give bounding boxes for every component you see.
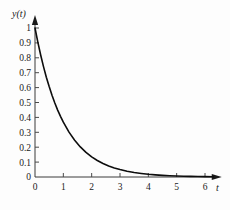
x-tick-label: 1 — [61, 182, 66, 192]
exponential-decay-figure: 00.10.20.30.40.50.60.70.80.91 0123456 y(… — [0, 0, 230, 210]
y-tick-label: 0.5 — [19, 98, 31, 108]
chart-canvas: 00.10.20.30.40.50.60.70.80.91 0123456 y(… — [0, 0, 230, 210]
axes-group — [32, 15, 222, 180]
y-tick-label: 0.2 — [19, 143, 31, 153]
y-tick-label: 0.1 — [19, 158, 31, 168]
y-axis-arrow-icon — [32, 15, 38, 25]
y-tick-label: 0.7 — [19, 68, 31, 78]
y-tick-label: 0.9 — [19, 38, 31, 48]
exponential-decay-curve — [35, 28, 214, 177]
y-tick-label: 1 — [26, 23, 31, 33]
data-curve-group — [35, 28, 214, 177]
y-tick-label: 0.4 — [19, 113, 31, 123]
y-tick-label: 0.8 — [19, 53, 31, 63]
x-tick-label: 6 — [203, 182, 208, 192]
y-axis-title: y(t) — [11, 8, 27, 20]
x-tick-label: 5 — [174, 182, 179, 192]
x-tick-label: 2 — [89, 182, 94, 192]
x-tick-label: 3 — [118, 182, 123, 192]
x-tick-label: 4 — [146, 182, 151, 192]
y-tick-label: 0.6 — [19, 83, 31, 93]
y-tick-label: 0 — [26, 172, 31, 182]
x-axis-title: t — [216, 182, 219, 193]
x-tick-label: 0 — [33, 182, 38, 192]
y-tick-label: 0.3 — [19, 128, 31, 138]
y-axis-ticks: 00.10.20.30.40.50.60.70.80.91 — [19, 23, 39, 182]
